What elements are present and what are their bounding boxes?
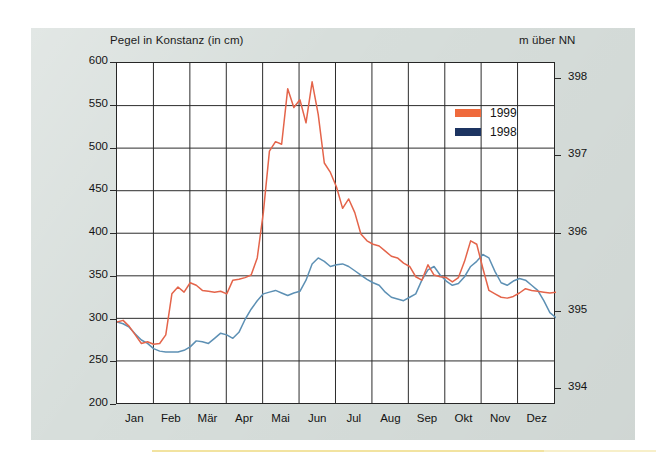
x-tick-Dez: Dez bbox=[513, 412, 561, 424]
legend-item-1999: 1999 bbox=[455, 103, 517, 122]
right-axis-caption: m über NN bbox=[519, 34, 576, 46]
y-tickmark-left bbox=[110, 319, 116, 320]
y-tick-left-300: 300 bbox=[68, 311, 108, 323]
legend-swatch-1999 bbox=[455, 109, 481, 117]
page-rule bbox=[152, 450, 544, 452]
y-tickmark-left bbox=[110, 233, 116, 234]
y-tick-left-550: 550 bbox=[68, 97, 108, 109]
y-tickmark-left bbox=[110, 190, 116, 191]
legend: 1999 1998 bbox=[455, 103, 517, 141]
y-tick-left-500: 500 bbox=[68, 140, 108, 152]
y-tick-left-200: 200 bbox=[68, 396, 108, 408]
y-tick-left-450: 450 bbox=[68, 182, 108, 194]
y-tick-right-398: 398 bbox=[568, 70, 608, 82]
y-tickmark-right bbox=[555, 388, 561, 389]
y-tick-right-397: 397 bbox=[568, 147, 608, 159]
y-tick-left-350: 350 bbox=[68, 268, 108, 280]
y-tickmark-left bbox=[110, 276, 116, 277]
y-tickmark-left bbox=[110, 148, 116, 149]
y-tickmark-left bbox=[110, 361, 116, 362]
y-tickmark-right bbox=[555, 78, 561, 79]
y-tickmark-left bbox=[110, 62, 116, 63]
y-tick-left-400: 400 bbox=[68, 225, 108, 237]
y-tickmark-right bbox=[555, 155, 561, 156]
figure-page: Pegel in Konstanz (in cm) m über NN 1999… bbox=[0, 0, 662, 461]
y-tickmark-right bbox=[555, 233, 561, 234]
line-1998 bbox=[117, 255, 556, 352]
legend-swatch-1998 bbox=[455, 128, 481, 136]
y-tick-left-250: 250 bbox=[68, 353, 108, 365]
legend-label-1999: 1999 bbox=[490, 106, 517, 120]
y-tick-right-396: 396 bbox=[568, 225, 608, 237]
y-tickmark-right bbox=[555, 311, 561, 312]
left-axis-caption: Pegel in Konstanz (in cm) bbox=[110, 34, 244, 46]
page-rule-secondary bbox=[544, 450, 656, 452]
legend-label-1998: 1998 bbox=[490, 125, 517, 139]
y-tick-left-600: 600 bbox=[68, 54, 108, 66]
legend-item-1998: 1998 bbox=[455, 122, 517, 141]
y-tickmark-left bbox=[110, 404, 116, 405]
y-tickmark-left bbox=[110, 105, 116, 106]
y-tick-right-394: 394 bbox=[568, 380, 608, 392]
y-tick-right-395: 395 bbox=[568, 303, 608, 315]
